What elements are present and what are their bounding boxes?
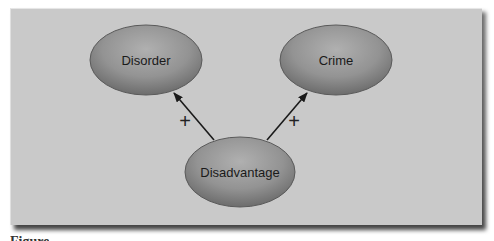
positive-sign: + <box>288 110 300 132</box>
arrow-icon <box>267 93 307 140</box>
node-label: Disorder <box>121 53 171 68</box>
node-crime: Crime <box>280 25 392 95</box>
figure-caption: Figure <box>10 234 49 241</box>
node-disorder: Disorder <box>90 25 202 95</box>
positive-sign: + <box>179 110 191 132</box>
node-label: Crime <box>319 53 354 68</box>
node-label: Disadvantage <box>200 165 280 180</box>
edge-disadvantage-disorder: + <box>174 93 214 140</box>
causal-diagram: + + Disorder Crime Disadvantage <box>0 0 494 241</box>
edge-disadvantage-crime: + <box>267 93 307 140</box>
node-disadvantage: Disadvantage <box>185 137 295 207</box>
